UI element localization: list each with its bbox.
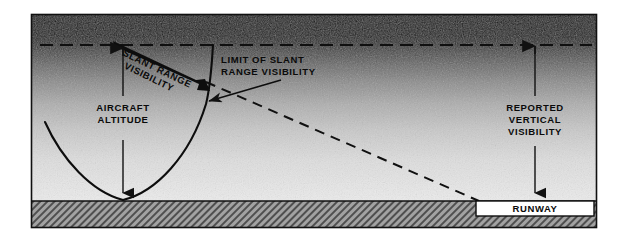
runway-box: RUNWAY [476, 201, 594, 216]
limit-of-slant-range-visibility-label: LIMIT OF SLANT RANGE VISIBILITY [221, 54, 316, 77]
limit-label-line2: RANGE VISIBILITY [221, 66, 316, 77]
aircraft-altitude-label: AIRCRAFT ALTITUDE [96, 102, 149, 125]
aircraft-altitude-line2: ALTITUDE [97, 114, 148, 125]
reported-line1: REPORTED [506, 102, 564, 113]
reported-vertical-visibility-label: REPORTED VERTICAL VISIBILITY [506, 102, 564, 137]
slant-range-visibility-figure: SLANT RANGE VISIBILITY LIMIT OF SLANT RA… [0, 0, 624, 243]
reported-line2: VERTICAL [509, 114, 561, 125]
limit-label-line1: LIMIT OF SLANT [221, 54, 304, 65]
aircraft-altitude-line1: AIRCRAFT [96, 102, 149, 113]
reported-line3: VISIBILITY [508, 126, 562, 137]
diagram-stage: SLANT RANGE VISIBILITY LIMIT OF SLANT RA… [0, 0, 624, 243]
runway-label: RUNWAY [513, 203, 558, 214]
